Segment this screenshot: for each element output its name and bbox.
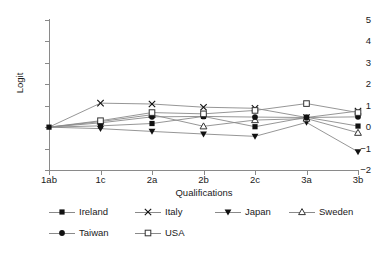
legend-item-usa[interactable]: USA	[135, 223, 185, 243]
y-tick-label: −1	[329, 144, 371, 154]
series-line-japan	[49, 122, 358, 151]
legend-label: Japan	[241, 207, 271, 217]
y-tick-mark	[45, 41, 49, 42]
legend-marker-icon	[215, 206, 241, 218]
y-tick-mark	[45, 106, 49, 107]
chart-legend: IrelandItalyJapanSweden TaiwanUSA	[49, 202, 361, 246]
y-tick-label: 4	[329, 36, 371, 46]
legend-row: IrelandItalyJapanSweden	[49, 202, 361, 222]
series-line-taiwan	[49, 116, 358, 127]
y-tick-label: 3	[329, 58, 371, 68]
series-markers-usa	[98, 101, 361, 124]
y-tick-mark	[45, 84, 49, 85]
x-tick-label: 2b	[184, 175, 224, 185]
x-tick-label: 2c	[235, 175, 275, 185]
x-tick-label: 1ab	[29, 175, 69, 185]
x-tick-label: 1c	[81, 175, 121, 185]
series-markers-japan	[97, 120, 361, 155]
series-line-italy	[49, 103, 358, 127]
x-tick-label: 2a	[132, 175, 172, 185]
series-markers-taiwan	[98, 114, 361, 126]
series-line-usa	[49, 104, 358, 128]
series-line-ireland	[49, 116, 358, 127]
x-tick-label: 3b	[338, 175, 376, 185]
y-tick-label: 2	[329, 79, 371, 89]
y-tick-mark	[45, 127, 49, 128]
legend-item-italy[interactable]: Italy	[135, 202, 182, 222]
series-markers-ireland	[98, 114, 361, 129]
legend-row: TaiwanUSA	[49, 223, 361, 243]
y-tick-mark	[45, 20, 49, 21]
legend-marker-icon	[289, 206, 315, 218]
legend-marker-icon	[135, 206, 161, 218]
series-markers-italy	[97, 100, 361, 121]
x-axis-title: Qualifications	[49, 188, 359, 198]
y-tick-mark	[45, 63, 49, 64]
y-axis-title: Logit	[15, 59, 25, 107]
legend-marker-icon	[135, 227, 161, 239]
legend-label: Italy	[161, 207, 182, 217]
x-tick-label: 3a	[287, 175, 327, 185]
legend-label: Taiwan	[75, 228, 109, 238]
legend-label: USA	[161, 228, 185, 238]
y-tick-label: 1	[329, 101, 371, 111]
y-tick-label: 0	[329, 122, 371, 132]
series-line-sweden	[49, 115, 358, 133]
y-axis-line	[49, 19, 50, 171]
series-markers-sweden	[97, 111, 361, 135]
legend-marker-icon	[49, 206, 75, 218]
y-tick-label: 5	[329, 15, 371, 25]
y-tick-mark	[45, 149, 49, 150]
legend-marker-icon	[49, 227, 75, 239]
y-tick-label: −2	[329, 165, 371, 175]
legend-item-ireland[interactable]: Ireland	[49, 202, 108, 222]
legend-item-japan[interactable]: Japan	[215, 202, 271, 222]
legend-item-sweden[interactable]: Sweden	[289, 202, 353, 222]
legend-item-taiwan[interactable]: Taiwan	[49, 223, 109, 243]
legend-label: Sweden	[315, 207, 353, 217]
legend-label: Ireland	[75, 207, 108, 217]
